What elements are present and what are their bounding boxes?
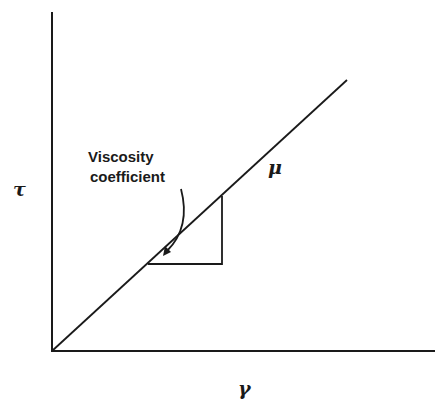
newtonian-fluid-diagram: Viscosity coefficient μ τ γ — [0, 0, 447, 410]
stress-strain-line — [52, 80, 347, 351]
annotation-line-1: Viscosity — [88, 148, 154, 165]
annotation-arrow — [167, 189, 184, 251]
annotation-line-2: coefficient — [90, 168, 165, 185]
x-axis-label-gamma: γ — [238, 377, 252, 399]
line-label-mu: μ — [268, 156, 282, 178]
y-axis-label-tau: τ — [13, 178, 26, 200]
